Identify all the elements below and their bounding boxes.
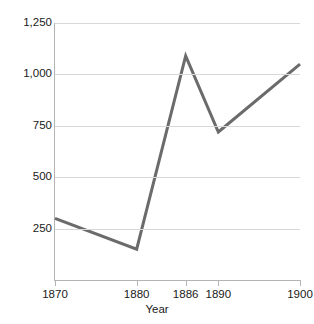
x-axis-tick-label: 1880: [124, 288, 150, 300]
gridline: [55, 177, 300, 178]
x-axis-tick-label: 1886: [173, 288, 199, 300]
gridline: [55, 74, 300, 75]
y-axis-tick-label: 1,000: [8, 68, 52, 79]
x-axis-tick-label: 1890: [206, 288, 232, 300]
y-axis-tick-label: 250: [8, 223, 52, 234]
gridline: [55, 126, 300, 127]
x-axis-tick-label: 1870: [42, 288, 68, 300]
data-series-line: [55, 23, 300, 280]
x-axis-tick-mark: [55, 281, 56, 286]
plot-area: [55, 23, 300, 280]
x-axis-tick-mark: [218, 281, 219, 286]
y-axis-tick-labels: 2505007501,0001,250: [6, 0, 52, 324]
line-chart: Union workers, in thousands 2505007501,0…: [0, 0, 314, 324]
gridline: [55, 23, 300, 24]
x-axis-tick-mark: [186, 281, 187, 286]
y-axis-tick-label: 500: [8, 171, 52, 182]
y-axis-tick-label: 1,250: [8, 17, 52, 28]
x-axis-tick-label: 1900: [287, 288, 313, 300]
x-axis-tick-mark: [300, 281, 301, 286]
x-axis-tick-mark: [137, 281, 138, 286]
x-axis-line: [55, 280, 301, 281]
y-axis-tick-label: 750: [8, 120, 52, 131]
x-axis-title: Year: [0, 303, 314, 316]
gridline: [55, 229, 300, 230]
